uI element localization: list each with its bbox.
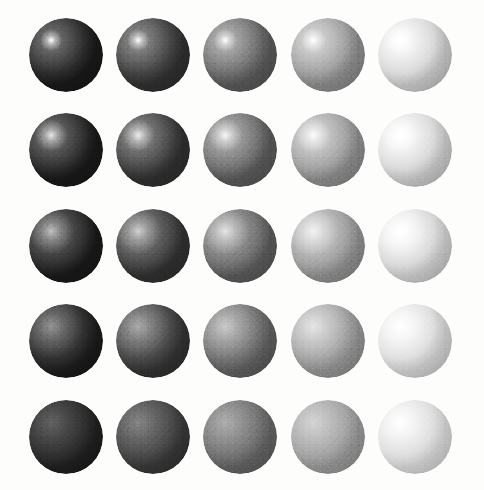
sphere-3-1 [29, 209, 103, 283]
sphere-1-5 [378, 18, 452, 92]
sphere-grain-texture [378, 209, 452, 283]
sphere-1-2 [116, 18, 190, 92]
sphere-grain-texture [203, 209, 277, 283]
sphere-grain-texture [116, 113, 190, 187]
sphere-4-3 [203, 304, 277, 378]
sphere-grain-texture [116, 304, 190, 378]
sphere-grain-texture [291, 400, 365, 474]
sphere-4-4 [291, 304, 365, 378]
sphere-grain-texture [29, 113, 103, 187]
sphere-5-2 [116, 400, 190, 474]
sphere-grain-texture [203, 113, 277, 187]
sphere-grain-texture [29, 209, 103, 283]
sphere-2-1 [29, 113, 103, 187]
sphere-grain-texture [378, 304, 452, 378]
sphere-2-5 [378, 113, 452, 187]
sphere-4-5 [378, 304, 452, 378]
sphere-3-4 [291, 209, 365, 283]
sphere-grain-texture [29, 18, 103, 92]
sphere-5-1 [29, 400, 103, 474]
sphere-4-1 [29, 304, 103, 378]
sphere-grain-texture [291, 18, 365, 92]
sphere-grain-texture [116, 400, 190, 474]
sphere-grain-texture [378, 400, 452, 474]
sphere-5-3 [203, 400, 277, 474]
sphere-3-3 [203, 209, 277, 283]
sphere-grain-texture [203, 400, 277, 474]
sphere-grain-texture [291, 304, 365, 378]
sphere-2-2 [116, 113, 190, 187]
sphere-2-3 [203, 113, 277, 187]
sphere-3-5 [378, 209, 452, 283]
sphere-grain-texture [29, 400, 103, 474]
sphere-grain-texture [291, 209, 365, 283]
sphere-5-4 [291, 400, 365, 474]
sphere-grain-texture [203, 18, 277, 92]
sphere-grain-texture [203, 304, 277, 378]
sphere-grain-texture [378, 18, 452, 92]
sphere-1-3 [203, 18, 277, 92]
sphere-grain-texture [116, 18, 190, 92]
sphere-3-2 [116, 209, 190, 283]
sphere-material-grid [0, 0, 484, 490]
sphere-1-1 [29, 18, 103, 92]
sphere-grain-texture [378, 113, 452, 187]
sphere-5-5 [378, 400, 452, 474]
sphere-grain-texture [29, 304, 103, 378]
sphere-1-4 [291, 18, 365, 92]
sphere-4-2 [116, 304, 190, 378]
sphere-grain-texture [291, 113, 365, 187]
sphere-2-4 [291, 113, 365, 187]
sphere-grain-texture [116, 209, 190, 283]
